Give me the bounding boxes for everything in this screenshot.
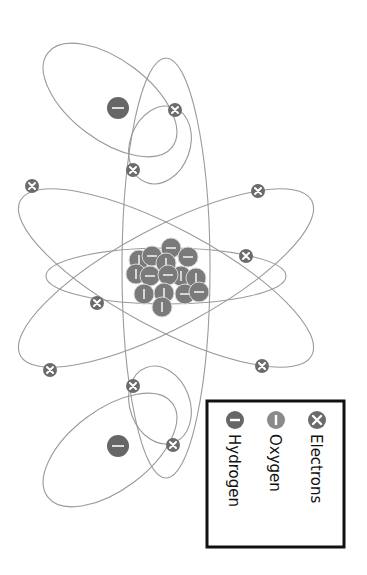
atom-diagram: Electrons Oxygen Hydrogen (0, 0, 367, 575)
hydrogen-nucleus-top (107, 97, 129, 119)
legend-hydrogen-icon (226, 411, 244, 429)
oxygen-nucleus (126, 238, 209, 317)
legend-label-hydrogen: Hydrogen (225, 434, 243, 507)
legend-label-electrons: Electrons (307, 434, 325, 504)
legend: Electrons Oxygen Hydrogen (207, 401, 344, 547)
hydrogen-nucleus-bottom (107, 435, 129, 457)
hydrogen-orbit-top (24, 21, 197, 179)
legend-oxygen-icon (267, 411, 285, 429)
hydrogen-inner-bottom (118, 357, 202, 453)
legend-label-oxygen: Oxygen (266, 434, 284, 492)
legend-electron-icon (308, 411, 326, 429)
